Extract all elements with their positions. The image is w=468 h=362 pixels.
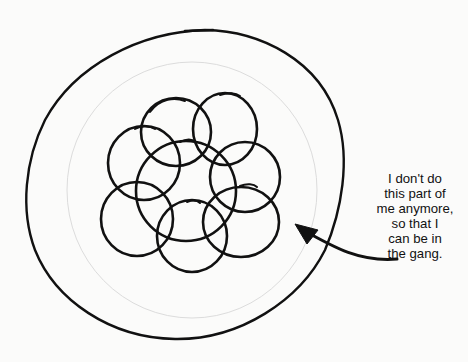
loop-right: [210, 142, 280, 212]
pen-mark: [135, 126, 155, 129]
caption-line: so that I: [365, 216, 465, 231]
caption-line: me anymore,: [365, 201, 465, 216]
caption-line: can be in: [365, 231, 465, 246]
caption-line: the gang.: [365, 246, 465, 261]
arrowhead-icon: [295, 224, 318, 244]
outer-circle: [26, 30, 343, 339]
loop-bottom-right: [203, 187, 279, 257]
loop-bottom-center: [157, 200, 227, 272]
caption: I don't do this part of me anymore, so t…: [365, 171, 465, 261]
loop-top-right: [193, 93, 257, 165]
caption-line: I don't do: [365, 171, 465, 186]
outer-circle-overlap-mark: [185, 30, 213, 31]
loop-cluster: [101, 93, 280, 272]
pen-mark: [187, 201, 200, 203]
caption-line: this part of: [365, 186, 465, 201]
pen-mark: [150, 99, 185, 112]
